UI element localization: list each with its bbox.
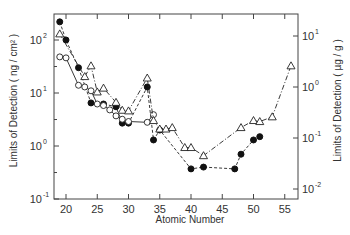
svg-text:-2: -2	[315, 181, 321, 188]
svg-text:-1: -1	[315, 130, 321, 137]
open-circle-marker	[101, 103, 107, 109]
svg-text:0: 0	[43, 138, 47, 145]
y-tick-label-right: 10	[302, 183, 314, 195]
y-tick-label-left: 10	[30, 193, 42, 205]
open-triangle-marker	[187, 144, 195, 151]
open-triangle-marker	[268, 113, 276, 120]
svg-text:1: 1	[315, 28, 319, 35]
x-tick-label: 25	[91, 203, 103, 215]
open-circle-marker	[94, 101, 100, 107]
open-circle-marker	[88, 88, 94, 94]
open-triangle-marker	[56, 30, 64, 37]
svg-text:0: 0	[315, 79, 319, 86]
open-circle-marker	[107, 107, 113, 113]
x-axis-label: Atomic Number	[140, 214, 240, 225]
x-tick-label: 50	[247, 203, 259, 215]
y-axis-label-right: Limits of Detection ( µg / g )	[332, 26, 343, 176]
y-tick-label-right: 10	[302, 132, 314, 144]
open-triangle-marker	[200, 152, 208, 159]
filled-circle-marker	[232, 166, 238, 172]
open-triangle-marker	[81, 73, 89, 80]
svg-text:-1: -1	[43, 191, 49, 198]
filled-circle-marker	[188, 166, 194, 172]
y-tick-label-left: 10	[30, 87, 42, 99]
filled-circle-marker	[144, 84, 150, 90]
filled-circle-marker	[201, 164, 207, 170]
y-tick-label-left: 10	[30, 140, 42, 152]
plot-area: 202530354045505510-110010110210-210-1100…	[0, 0, 350, 235]
y-tick-label-right: 10	[302, 30, 314, 42]
plot-frame	[54, 14, 298, 199]
series-line	[60, 22, 260, 169]
open-triangle-marker	[250, 117, 258, 124]
x-tick-label: 30	[122, 203, 134, 215]
y-tick-label-right: 10	[302, 81, 314, 93]
filled-circle-marker	[251, 137, 257, 143]
filled-circle-marker	[151, 137, 157, 143]
open-triangle-marker	[237, 124, 245, 131]
x-tick-label: 55	[279, 203, 291, 215]
x-tick-label: 20	[60, 203, 72, 215]
open-triangle-marker	[143, 74, 151, 81]
filled-circle-marker	[57, 19, 63, 25]
open-circle-marker	[144, 119, 150, 125]
open-triangle-marker	[100, 84, 108, 91]
filled-circle-marker	[88, 100, 94, 106]
open-triangle-marker	[287, 62, 295, 69]
open-triangle-marker	[125, 107, 133, 114]
chart: 202530354045505510-110010110210-210-1100…	[0, 0, 350, 235]
open-circle-marker	[113, 113, 119, 119]
filled-circle-marker	[238, 151, 244, 157]
open-triangle-marker	[168, 124, 176, 131]
y-axis-label-left: Limits of Detection ( ng / cm² )	[8, 26, 19, 176]
open-circle-marker	[76, 82, 82, 88]
open-circle-marker	[63, 55, 69, 61]
filled-circle-marker	[63, 37, 69, 43]
open-circle-marker	[119, 116, 125, 122]
open-circle-marker	[57, 54, 63, 60]
y-tick-label-left: 10	[30, 34, 42, 46]
svg-text:1: 1	[43, 85, 47, 92]
svg-text:2: 2	[43, 32, 47, 39]
open-triangle-marker	[87, 62, 95, 69]
open-circle-marker	[82, 84, 88, 90]
open-circle-marker	[126, 118, 132, 124]
filled-circle-marker	[257, 134, 263, 140]
